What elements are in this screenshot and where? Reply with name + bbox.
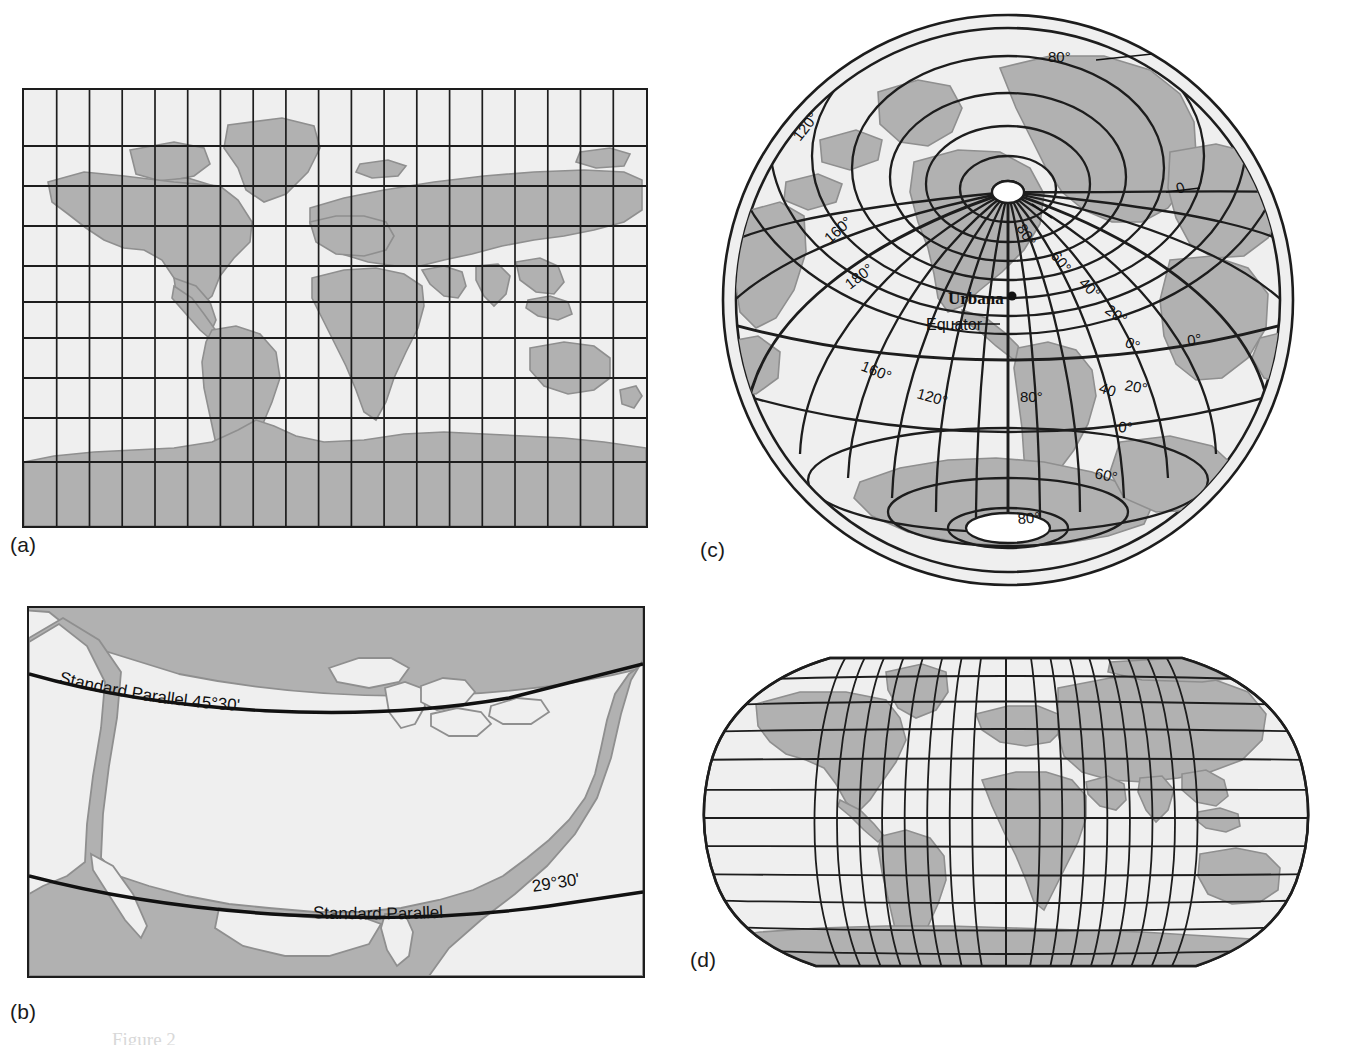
panel-c-azimuthal-globe: 80° 120° 160° 180° 160° 120° 80° 80° 60°… — [700, 12, 1320, 588]
panel-b-label: (b) — [10, 1000, 36, 1024]
panel-c-label: (c) — [700, 538, 725, 562]
panel-d-label: (d) — [690, 948, 716, 972]
parallel-80-n-label: 80° — [1048, 48, 1071, 65]
north-pole-hole — [992, 181, 1024, 203]
meridian-80-s-label: 80° — [1020, 388, 1043, 405]
panel-b-svg: Standard Parallel 45°30' Standard Parall… — [29, 608, 643, 976]
panel-a-svg — [24, 90, 646, 526]
panel-c-svg: 80° 120° 160° 180° 160° 120° 80° 80° 60°… — [700, 12, 1320, 588]
equator-label: Equator — [926, 316, 983, 333]
cut-off-caption: Figure 2 — [112, 1029, 372, 1045]
standard-parallel-south-label: Standard Parallel — [313, 903, 444, 924]
parallel-0-far-e-label: 0° — [1186, 330, 1203, 349]
urbana-place-label: Urbana — [948, 289, 1004, 308]
panel-d-svg — [690, 648, 1320, 978]
panel-d-robinson-map — [690, 648, 1320, 978]
panel-a-label: (a) — [10, 533, 36, 557]
urbana-city-dot — [1008, 292, 1017, 301]
panel-a-cylindrical-map — [22, 88, 648, 528]
parallel-0-se-label: 0° — [1118, 418, 1133, 436]
parallel-80-s-label: 80° — [1017, 508, 1041, 527]
panel-b-conic-map: Standard Parallel 45°30' Standard Parall… — [27, 606, 645, 978]
